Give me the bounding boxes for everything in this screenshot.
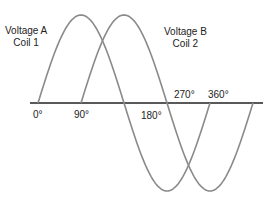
voltage-a-label: Voltage A Coil 1 (5, 25, 47, 49)
voltage-b-label: Voltage B Coil 2 (164, 26, 207, 50)
voltage-b-title: Voltage B (164, 26, 207, 38)
voltage-a-title: Voltage A (5, 25, 47, 37)
tick-0: 0° (33, 109, 43, 121)
coil-1-label: Coil 1 (5, 37, 47, 49)
tick-180: 180° (141, 110, 162, 122)
coil-2-label: Coil 2 (164, 38, 207, 50)
tick-360: 360° (208, 89, 229, 101)
tick-270: 270° (174, 89, 195, 101)
tick-90: 90° (74, 109, 89, 121)
